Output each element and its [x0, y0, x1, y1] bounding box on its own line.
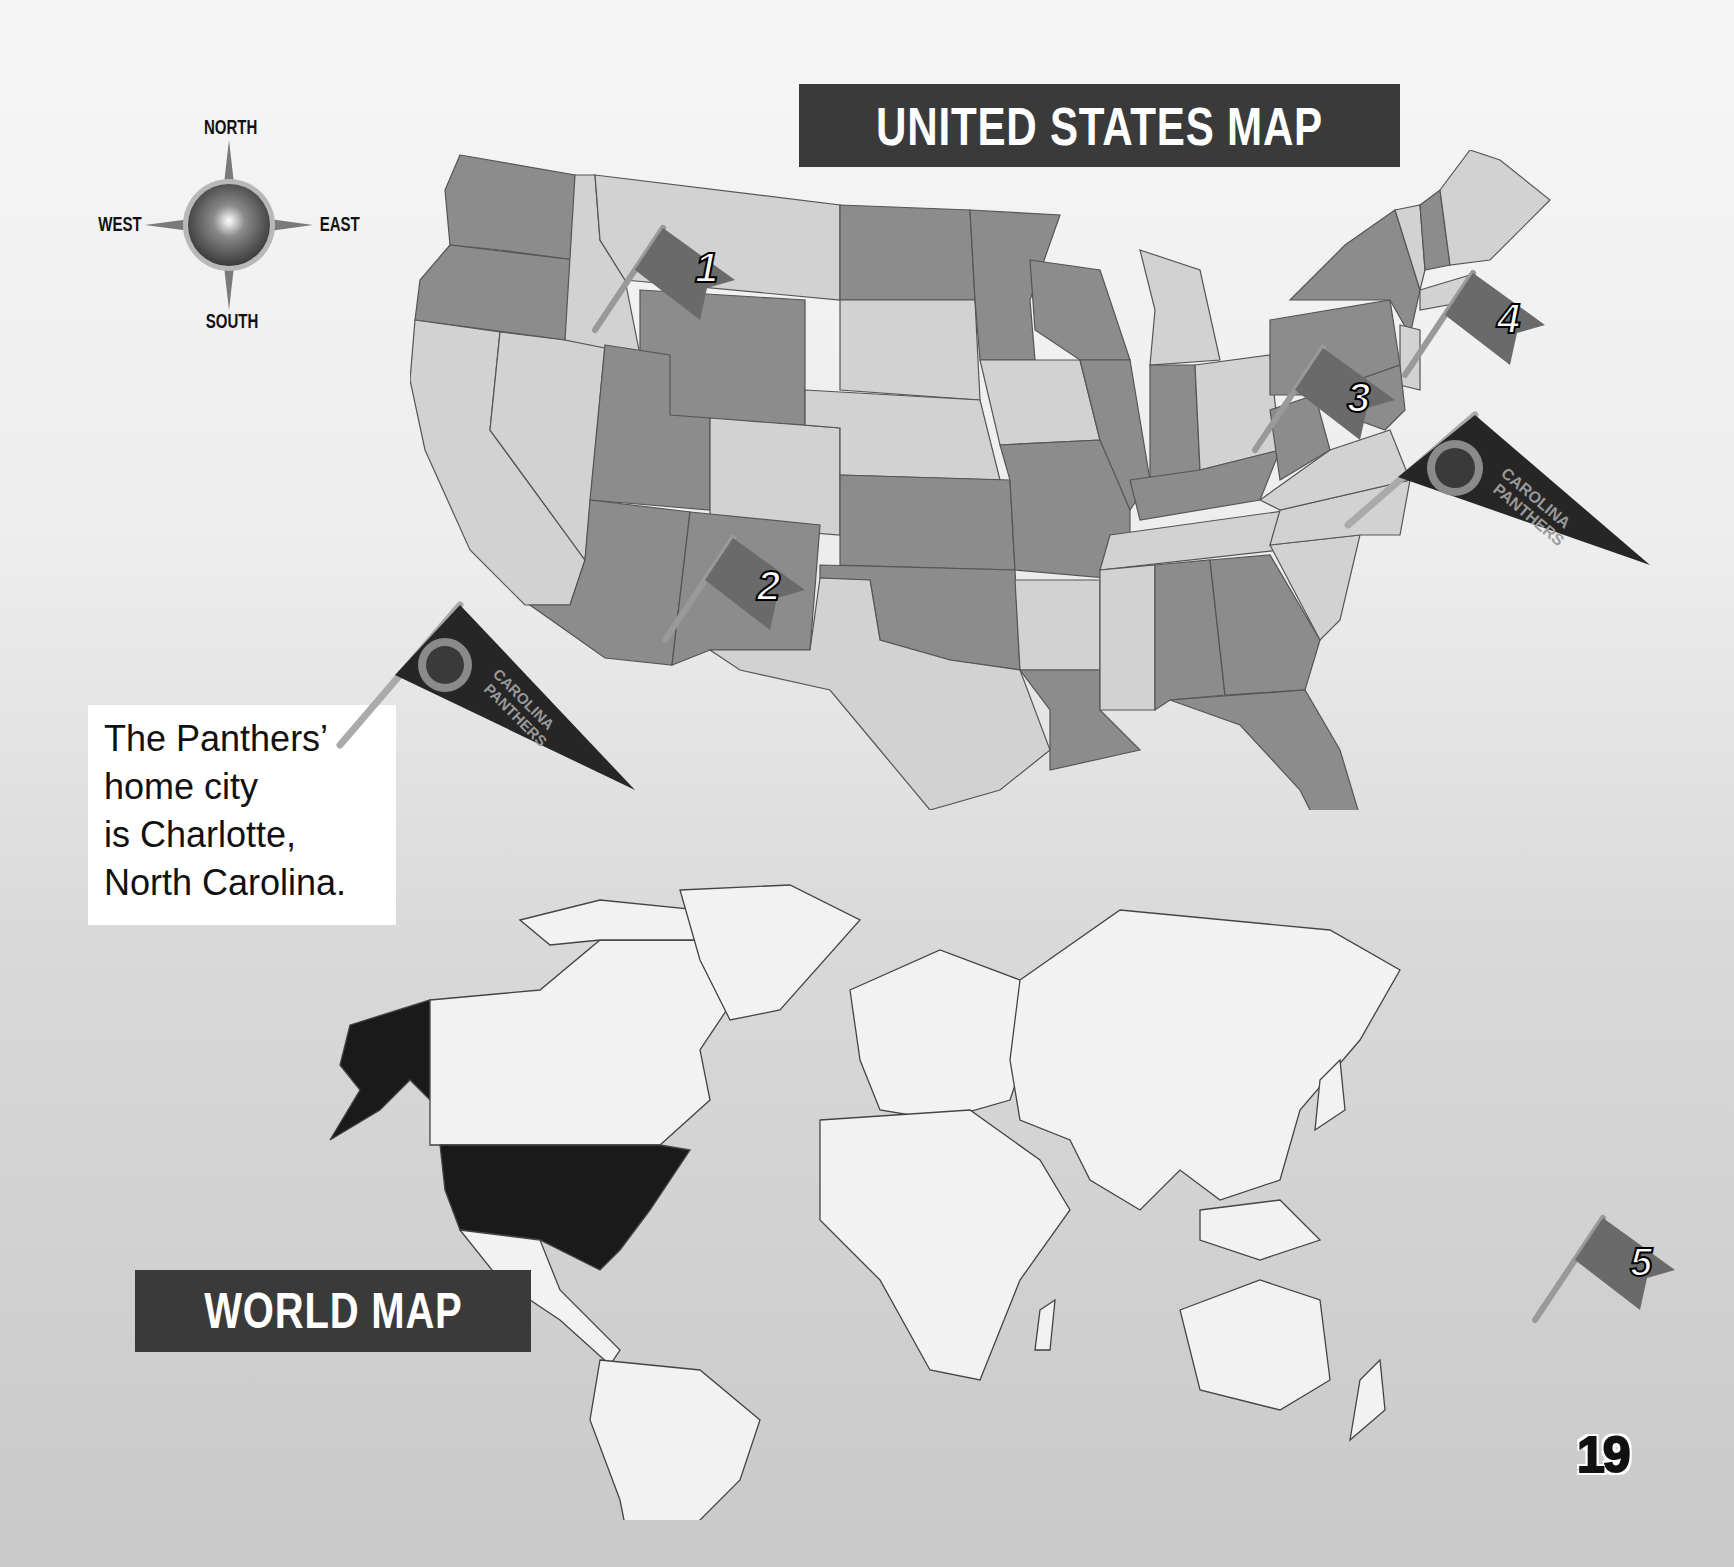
state-michigan — [1140, 250, 1220, 365]
world-map-title: WORLD MAP — [204, 1282, 462, 1340]
state-south-dakota — [840, 300, 980, 400]
state-florida — [1170, 690, 1370, 810]
state-washington — [445, 155, 575, 260]
flag-5: 5 — [1525, 1200, 1695, 1340]
madagascar — [1035, 1300, 1055, 1350]
world-map-title-banner: WORLD MAP — [135, 1270, 531, 1352]
state-maine — [1440, 150, 1550, 265]
asia — [1010, 910, 1400, 1210]
flag-1-number: 1 — [695, 244, 718, 291]
africa — [820, 1110, 1070, 1380]
world-map-graphic — [320, 880, 1520, 1520]
caption-line-3: is Charlotte, — [104, 811, 380, 859]
pennant-caption: CAROLINA PANTHERS — [330, 595, 650, 795]
state-iowa — [980, 360, 1100, 445]
state-wisconsin — [1030, 260, 1130, 360]
europe — [850, 950, 1030, 1120]
pennant-us-map: CAROLINA PANTHERS — [1340, 405, 1660, 635]
flag-2-number: 2 — [756, 562, 780, 609]
new-zealand — [1350, 1360, 1385, 1440]
canada — [430, 940, 740, 1145]
state-mississippi — [1100, 565, 1155, 710]
flag-2: 2 — [655, 520, 825, 660]
flag-4: 4 — [1395, 255, 1565, 395]
compass-west-label: WEST — [98, 213, 141, 236]
southeast-asia-islands — [1200, 1200, 1320, 1260]
world-map — [320, 880, 1520, 1520]
compass-south-label: SOUTH — [206, 310, 259, 333]
us-map-title: UNITED STATES MAP — [876, 95, 1323, 157]
compass-north-label: NORTH — [204, 116, 257, 139]
state-kansas — [840, 475, 1015, 570]
compass-rose: NORTH SOUTH WEST EAST — [95, 110, 365, 350]
page-number: 19 — [1577, 1426, 1629, 1484]
south-america — [590, 1360, 760, 1520]
state-north-dakota — [840, 205, 975, 300]
flag-4-number: 4 — [1496, 295, 1520, 342]
alaska — [330, 1000, 430, 1140]
compass-east-label: EAST — [320, 213, 360, 236]
state-indiana — [1150, 365, 1200, 485]
flag-5-number: 5 — [1630, 1240, 1653, 1284]
flag-1: 1 — [585, 210, 755, 350]
state-arkansas — [1015, 580, 1100, 670]
australia — [1180, 1280, 1330, 1410]
